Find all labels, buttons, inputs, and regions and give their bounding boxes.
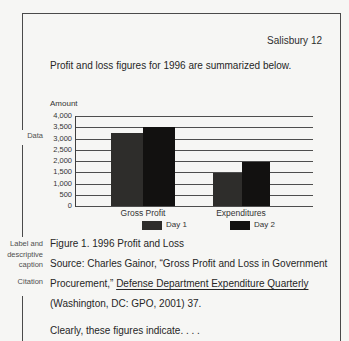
- margin-note-citation: Citation: [0, 277, 43, 288]
- page-border-right: [340, 13, 341, 341]
- page-border-top: [22, 13, 341, 14]
- figure-source-line-3: (Washington, DC: GPO, 2001) 37.: [50, 298, 201, 309]
- journal-title-underlined: Defense Department Expenditure Quarterly: [116, 278, 308, 289]
- page-border-left-lower: [22, 296, 23, 341]
- y-tick-label: 1,500: [30, 167, 72, 177]
- y-tick-label: 0: [30, 201, 72, 211]
- bar-gross-profit-day-2: [143, 127, 175, 206]
- y-tick-label: 4,000: [30, 111, 72, 121]
- bar-gross-profit-day-1: [111, 133, 143, 206]
- y-tick-label: 500: [30, 190, 72, 200]
- figure-source-line-2: Procurement,” Defense Department Expendi…: [50, 278, 308, 289]
- y-tick-label: 3,000: [30, 134, 72, 144]
- legend-label-day-2: Day 2: [254, 220, 275, 229]
- legend-label-day-1: Day 1: [166, 220, 187, 229]
- page-border-left-upper: [22, 13, 23, 130]
- closing-sentence: Clearly, these figures indicate. . . .: [50, 325, 200, 336]
- gridline: [76, 206, 313, 207]
- margin-note-caption: Label and descriptive caption: [0, 239, 43, 271]
- bar-expenditures-day-2: [242, 162, 270, 206]
- page-border-left-middle: [22, 145, 23, 237]
- figure-source-line-1: Source: Charles Gainor, “Gross Profit an…: [50, 258, 327, 269]
- chart-axis-label: Amount: [50, 99, 78, 108]
- y-tick-label: 1,000: [30, 179, 72, 189]
- legend-swatch-day-2: [230, 221, 250, 230]
- figure-source-line-2-plain: Procurement,”: [50, 278, 116, 289]
- gridline: [76, 127, 313, 128]
- running-head: Salisbury 12: [180, 35, 322, 46]
- intro-sentence: Profit and loss figures for 1996 are sum…: [50, 60, 291, 71]
- figure-caption: Figure 1. 1996 Profit and Loss: [50, 238, 184, 249]
- bar-expenditures-day-1: [213, 173, 242, 206]
- y-tick-label: 2,500: [30, 145, 72, 155]
- gridline: [76, 116, 313, 117]
- scanned-paper-page: Salisbury 12 Profit and loss figures for…: [0, 0, 349, 341]
- legend-swatch-day-1: [142, 221, 162, 230]
- y-tick-label: 3,500: [30, 122, 72, 132]
- y-tick-label: 2,000: [30, 156, 72, 166]
- category-label-expenditures: Expenditures: [191, 208, 291, 218]
- category-label-gross-profit: Gross Profit: [93, 208, 193, 218]
